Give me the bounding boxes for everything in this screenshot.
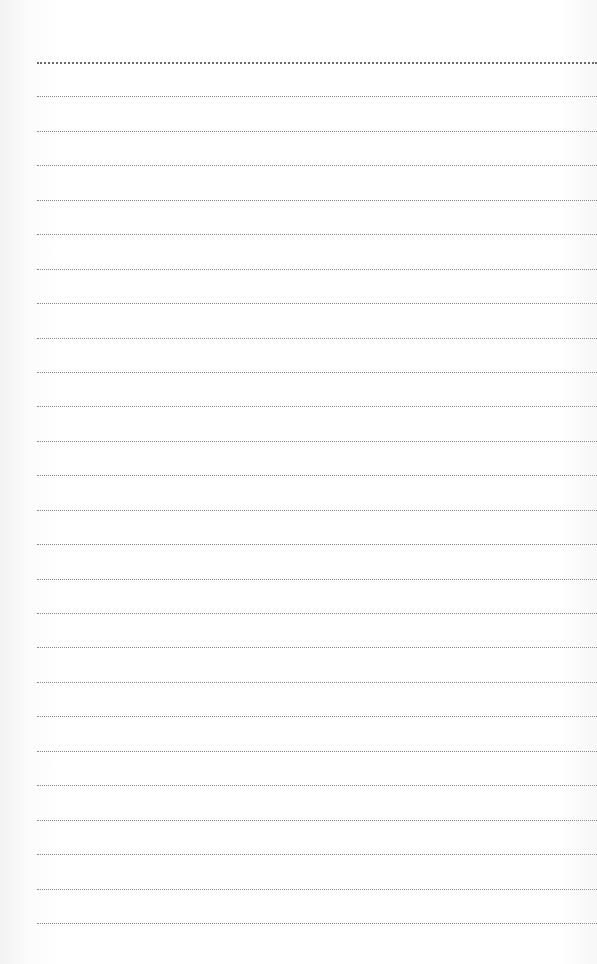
ruled-line <box>37 96 597 97</box>
ruled-line <box>37 579 597 580</box>
ruled-line <box>37 200 597 201</box>
ruled-line <box>37 165 597 166</box>
ruled-line <box>37 682 597 683</box>
ruled-line <box>37 785 597 786</box>
ruled-line <box>37 406 597 407</box>
ruled-line <box>37 338 597 339</box>
ruled-line <box>37 62 597 64</box>
ruled-line <box>37 647 597 648</box>
ruled-line <box>37 889 597 890</box>
ruled-line <box>37 269 597 270</box>
ruled-line <box>37 131 597 132</box>
ruled-line <box>37 544 597 545</box>
ruled-line <box>37 923 597 924</box>
ruled-line <box>37 510 597 511</box>
ruled-page <box>0 0 597 964</box>
ruled-line <box>37 234 597 235</box>
ruled-line <box>37 303 597 304</box>
bleed-through-text <box>0 2 597 18</box>
ruled-line <box>37 751 597 752</box>
ruled-line <box>37 441 597 442</box>
ruled-line <box>37 716 597 717</box>
ruled-line <box>37 854 597 855</box>
ruled-line <box>37 475 597 476</box>
ruled-line <box>37 372 597 373</box>
ruled-line <box>37 613 597 614</box>
ruled-line <box>37 820 597 821</box>
